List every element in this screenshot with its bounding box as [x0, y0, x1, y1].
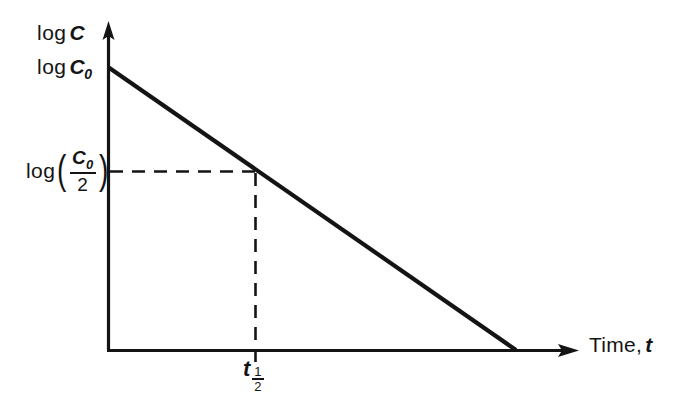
half-life-numerator: 1: [252, 365, 263, 378]
half-value-prefix: log: [26, 160, 55, 181]
half-life-fraction: 1 2: [252, 365, 263, 393]
x-axis-title-prefix: Time,: [589, 333, 642, 356]
half-life-label: t 1 2: [243, 358, 265, 393]
x-axis-title-variable: t: [642, 333, 652, 356]
half-value-numerator-subscript: 0: [86, 157, 94, 172]
half-value-fraction: C0 2: [70, 148, 96, 194]
y-axis-title-prefix: log: [37, 21, 67, 44]
decay-line: [108, 67, 516, 350]
half-value-numerator-variable: C: [72, 147, 86, 168]
half-life-denominator: 2: [252, 380, 263, 393]
intercept-label-prefix: log: [37, 55, 67, 78]
half-value-denominator: 2: [75, 174, 90, 194]
intercept-label-subscript: 0: [84, 66, 92, 82]
half-value-numerator: C0: [70, 148, 96, 172]
figure-container: logC logC0 log ( C0 2 ) t 1 2 Time,t: [0, 0, 694, 415]
half-value-label: log ( C0 2 ): [26, 148, 110, 194]
intercept-label: logC0: [37, 56, 93, 81]
y-axis-title-variable: C: [67, 21, 86, 44]
y-axis-title: logC: [37, 22, 85, 43]
x-axis-title: Time,t: [589, 334, 653, 355]
half-life-variable: t: [243, 358, 250, 380]
intercept-label-variable: C: [67, 55, 86, 78]
